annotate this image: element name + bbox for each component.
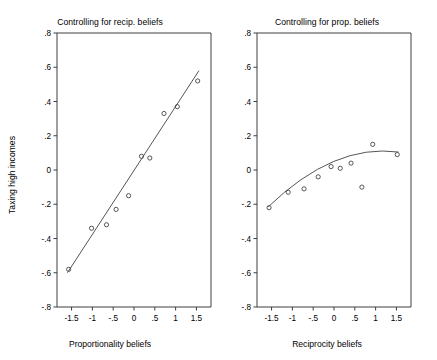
data-point <box>114 207 118 211</box>
plot-frame <box>257 33 411 307</box>
x-tick-label: .5 <box>351 314 358 323</box>
chart-panel-right: Controlling for prop. beliefs -.8-.6-.4-… <box>217 0 437 360</box>
data-point <box>196 79 200 83</box>
x-tick-label: -1 <box>89 314 97 323</box>
x-tick-label: 1 <box>173 314 178 323</box>
data-point <box>338 166 342 170</box>
y-tick-label: .2 <box>44 132 51 141</box>
y-tick-label: -.2 <box>41 200 51 209</box>
x-tick-label: -.5 <box>108 314 118 323</box>
data-point <box>162 111 166 115</box>
x-tick-label: 1.5 <box>391 314 403 323</box>
data-point <box>104 223 108 227</box>
y-tick-label: -.8 <box>41 303 51 312</box>
x-tick-label: 0 <box>132 314 137 323</box>
y-tick-label: .4 <box>44 98 51 107</box>
data-point <box>316 175 320 179</box>
data-point <box>349 161 353 165</box>
y-tick-label: -.2 <box>241 200 251 209</box>
figure-canvas: Taxing high incomes Controlling for reci… <box>0 0 437 360</box>
y-tick-label: -.6 <box>41 269 51 278</box>
data-point <box>395 152 399 156</box>
x-tick-label: -1.5 <box>65 314 80 323</box>
panel-right-x-axis-label: Reciprocity beliefs <box>217 339 437 349</box>
x-tick-label: -1.5 <box>265 314 280 323</box>
y-tick-label: .8 <box>244 29 251 38</box>
panel-left-plot: -.8-.6-.4-.20.2.4.6.8-1.5-1-.50.511.5 <box>0 0 220 360</box>
data-point <box>89 226 93 230</box>
y-tick-label: -.6 <box>241 269 251 278</box>
y-tick-label: .2 <box>244 132 251 141</box>
data-point <box>302 187 306 191</box>
data-point <box>329 164 333 168</box>
y-tick-label: -.8 <box>241 303 251 312</box>
y-tick-label: .6 <box>44 63 51 72</box>
x-tick-label: .5 <box>151 314 158 323</box>
data-point <box>148 156 152 160</box>
x-tick-label: -.5 <box>308 314 318 323</box>
x-tick-label: 1.5 <box>191 314 203 323</box>
x-tick-label: -1 <box>289 314 297 323</box>
panel-left-x-axis-label: Proportionality beliefs <box>0 339 220 349</box>
data-point <box>371 142 375 146</box>
x-tick-label: 0 <box>332 314 337 323</box>
x-tick-label: 1 <box>373 314 378 323</box>
data-point <box>360 185 364 189</box>
y-tick-label: -.4 <box>241 235 251 244</box>
fit-line <box>67 71 199 273</box>
panel-right-plot: -.8-.6-.4-.20.2.4.6.8-1.5-1-.50.511.5 <box>217 0 437 360</box>
fit-line <box>268 151 398 207</box>
y-tick-label: -.4 <box>41 235 51 244</box>
y-tick-label: 0 <box>46 166 51 175</box>
y-tick-label: .8 <box>44 29 51 38</box>
data-point <box>126 194 130 198</box>
chart-panel-left: Controlling for recip. beliefs -.8-.6-.4… <box>0 0 220 360</box>
y-tick-label: 0 <box>246 166 251 175</box>
y-tick-label: .6 <box>244 63 251 72</box>
y-tick-label: .4 <box>244 98 251 107</box>
data-point <box>286 190 290 194</box>
